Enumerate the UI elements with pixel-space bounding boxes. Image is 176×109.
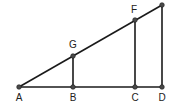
label-G: G (69, 39, 77, 50)
label-F: F (131, 4, 137, 15)
label-D: D (158, 92, 165, 103)
point-top (160, 3, 165, 8)
point-G (71, 54, 76, 59)
label-C: C (131, 92, 138, 103)
point-C (133, 85, 138, 90)
point-F (133, 18, 138, 23)
label-B: B (70, 92, 77, 103)
segment-A-top (19, 5, 162, 87)
geometry-diagram: A B C D G F (0, 0, 176, 109)
point-D (160, 85, 165, 90)
point-A (17, 85, 22, 90)
point-B (71, 85, 76, 90)
label-A: A (16, 92, 23, 103)
